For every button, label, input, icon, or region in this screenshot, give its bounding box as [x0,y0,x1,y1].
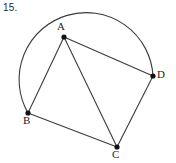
vertex-label-d: D [157,69,165,80]
vertex-label-c: C [112,149,119,160]
chord-a-c [64,37,117,147]
chord-c-d [117,76,153,147]
circle-arc [19,13,153,113]
vertex-point-d [150,73,155,78]
chord-a-d [64,37,153,76]
geometry-figure: 15. A B C D [0,0,176,163]
chord-a-b [28,37,64,113]
vertex-label-b: B [23,115,30,126]
vertex-label-a: A [57,21,65,32]
vertex-point-a [61,34,66,39]
circle-quadrilateral-diagram [0,0,176,163]
